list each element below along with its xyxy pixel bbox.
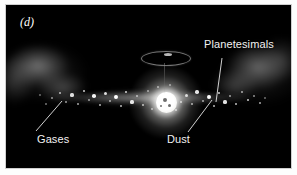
panel-letter: (d) <box>20 15 34 30</box>
label-gases: Gases <box>37 133 69 145</box>
label-dust: Dust <box>167 133 190 145</box>
planetesimals-leader <box>216 58 222 102</box>
illustration-plate: Planetesimals Gases Dust (d) <box>6 5 291 168</box>
dust-leader <box>188 100 212 132</box>
gases-leader <box>36 101 62 131</box>
figure-panel-d: Planetesimals Gases Dust (d) <box>0 0 297 175</box>
label-planetesimals: Planetesimals <box>204 38 274 50</box>
